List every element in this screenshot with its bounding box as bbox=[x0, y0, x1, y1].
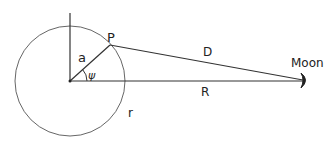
radius-a-label: a bbox=[78, 51, 86, 64]
earth-moon-diagram: P a ψ D R r Moon bbox=[0, 0, 335, 146]
moon-label: Moon bbox=[291, 57, 324, 69]
circle-r-label: r bbox=[128, 107, 133, 119]
angle-psi-arc bbox=[83, 70, 87, 82]
distance-r-label: R bbox=[201, 86, 209, 98]
center-point bbox=[69, 80, 72, 83]
distance-d-label: D bbox=[203, 46, 212, 58]
diagram-canvas bbox=[0, 0, 335, 146]
point-p-label: P bbox=[107, 31, 115, 44]
angle-psi-label: ψ bbox=[88, 70, 95, 81]
